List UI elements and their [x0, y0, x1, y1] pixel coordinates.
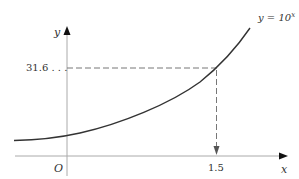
curve-exponential	[14, 28, 250, 141]
x-marker-label: 1.5	[208, 163, 224, 173]
curve-label-text: y = 10	[258, 12, 291, 23]
graph-canvas	[0, 0, 299, 179]
graph-figure: y 31.6 . . . y = 10x O 1.5 x	[0, 0, 299, 179]
curve-label: y = 10x	[258, 13, 295, 23]
y-axis-arrow-icon	[64, 26, 71, 35]
origin-label: O	[54, 163, 63, 174]
down-arrow-icon	[214, 146, 220, 155]
curve-label-exponent: x	[291, 11, 295, 19]
x-axis-arrow-icon	[279, 153, 288, 160]
x-axis-label: x	[281, 164, 287, 175]
y-axis-label: y	[54, 27, 60, 38]
y-marker-label: 31.6 . . .	[26, 63, 67, 73]
